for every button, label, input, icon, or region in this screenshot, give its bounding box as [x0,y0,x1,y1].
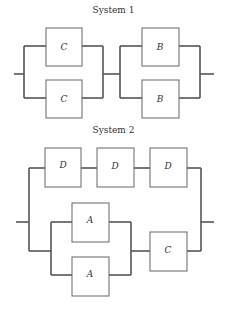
component-c-lower: C [46,80,82,118]
component-label: A [86,269,94,279]
component-label: D [58,160,66,170]
component-label: A [86,215,94,225]
component-c-upper: C [46,28,82,66]
component-d-2: D [97,148,134,187]
component-label: B [156,94,164,104]
component-label: C [61,94,68,104]
component-label: D [163,161,171,171]
system-1-wires [14,46,214,98]
component-b-lower: B [142,80,179,118]
component-label: B [156,42,164,52]
component-d-1: D [45,148,81,187]
component-label: D [110,161,118,171]
component-a-upper: A [72,203,109,242]
component-label: C [61,42,68,52]
component-b-upper: B [142,28,179,66]
component-d-3: D [150,148,187,187]
reliability-diagram: C C B B D D [0,0,227,309]
component-c-system2: C [150,232,187,271]
component-label: C [165,245,172,255]
component-a-lower: A [72,257,109,296]
